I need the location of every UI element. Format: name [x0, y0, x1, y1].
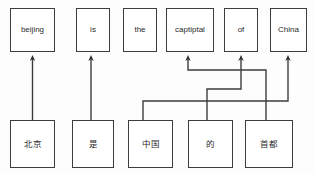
link-capital — [188, 58, 266, 120]
target-node-label: beijing — [21, 26, 44, 34]
alignment-diagram-canvas: beijingisthecaptiptalofChina 北京是中国的首都 — [0, 0, 314, 174]
source-node-label: 中国 — [142, 140, 160, 149]
source-node-s3[interactable]: 的 — [188, 120, 233, 168]
target-node-t3[interactable]: captiptal — [166, 8, 214, 52]
target-node-label: China — [278, 26, 299, 34]
target-node-t1[interactable]: is — [76, 8, 110, 52]
target-node-t2[interactable]: the — [123, 8, 157, 52]
target-node-t5[interactable]: China — [270, 8, 307, 52]
source-node-label: 的 — [206, 140, 215, 149]
source-node-label: 首都 — [260, 140, 278, 149]
source-node-s1[interactable]: 是 — [72, 120, 114, 168]
target-node-label: the — [134, 26, 145, 34]
source-node-s4[interactable]: 首都 — [245, 120, 293, 168]
link-china — [143, 58, 288, 120]
target-node-label: of — [238, 26, 245, 34]
target-node-label: captiptal — [175, 26, 205, 34]
source-node-s2[interactable]: 中国 — [128, 120, 173, 168]
target-node-label: is — [90, 26, 96, 34]
link-of — [207, 58, 241, 120]
source-node-s0[interactable]: 北京 — [10, 120, 55, 168]
source-node-label: 北京 — [24, 140, 42, 149]
source-node-label: 是 — [89, 140, 98, 149]
target-node-t0[interactable]: beijing — [10, 8, 55, 52]
target-node-t4[interactable]: of — [224, 8, 258, 52]
